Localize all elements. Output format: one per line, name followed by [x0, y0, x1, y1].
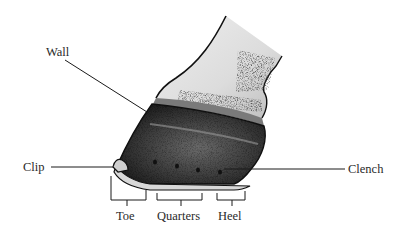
hoof-diagram: Wall Clip Clench Toe Quarters Heel — [0, 0, 404, 238]
wall-label: Wall — [46, 46, 69, 59]
wall-leader-line — [65, 60, 147, 112]
clench-mark — [175, 163, 179, 168]
hoof-illustration — [0, 0, 404, 238]
heel-bracket — [217, 191, 245, 206]
quarters-bracket — [157, 193, 202, 206]
clench-mark — [196, 167, 200, 172]
clench-mark — [153, 159, 157, 164]
clench-label: Clench — [348, 163, 383, 176]
quarters-label: Quarters — [157, 210, 200, 223]
clip-label: Clip — [23, 161, 45, 174]
toe-label: Toe — [116, 210, 135, 223]
clench-mark — [218, 169, 222, 174]
heel-label: Heel — [218, 210, 242, 223]
